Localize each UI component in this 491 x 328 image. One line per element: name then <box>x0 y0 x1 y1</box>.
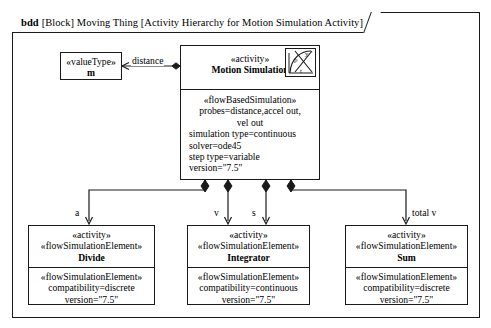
integrator-attributes: «flowSimulationElement» compatibility=co… <box>188 267 309 306</box>
edge-label-v: v <box>213 207 220 218</box>
edge-label-total-v: total v <box>411 207 437 218</box>
block-sum[interactable]: «activity» «flowSimulationElement» Sum «… <box>345 225 468 305</box>
sum-name: Sum <box>349 252 464 263</box>
attr-line: solver=ode45 <box>184 140 316 151</box>
icon-t-axis-label: t <box>300 67 302 75</box>
diagram-kind-label: bdd <box>21 17 39 28</box>
sum-attr-stereotype: «flowSimulationElement» <box>349 271 464 282</box>
value-type-name: m <box>64 67 118 78</box>
integrator-attr-line: version="7.5" <box>191 294 306 305</box>
attr-line: simulation type=continuous <box>184 128 316 139</box>
divide-stereotype-2: «flowSimulationElement» <box>32 240 151 251</box>
block-divide[interactable]: «activity» «flowSimulationElement» Divid… <box>28 225 155 305</box>
motion-simulation-header: «activity» Motion Simulation y p t <box>181 46 319 89</box>
integrator-header: «activity» «flowSimulationElement» Integ… <box>188 226 309 267</box>
attr-line: vel out <box>184 117 316 128</box>
sum-attributes: «flowSimulationElement» compatibility=di… <box>346 267 467 306</box>
attr-line: probes=distance,accel out, <box>184 105 316 116</box>
attr-line: step type=variable <box>184 151 316 162</box>
icon-y-axis-label: y <box>305 50 309 58</box>
divide-stereotype: «activity» <box>32 229 151 240</box>
edge-label-s: s <box>251 207 257 218</box>
edge-label-a: a <box>74 207 80 218</box>
divide-attr-line: compatibility=discrete <box>32 282 151 293</box>
integrator-name: Integrator <box>191 252 306 263</box>
integrator-attr-line: compatibility=continuous <box>191 282 306 293</box>
icon-curve-label: p <box>294 56 298 64</box>
motion-simulation-attributes: «flowBasedSimulation» probes=distance,ac… <box>181 89 319 181</box>
diagram-header-tab: bdd [Block] Moving Thing [Activity Hiera… <box>12 12 373 33</box>
sum-stereotype: «activity» <box>349 229 464 240</box>
edge-label-distance: distance <box>131 55 164 66</box>
integrator-stereotype: «activity» <box>191 229 306 240</box>
block-value-type-m[interactable]: «valueType» m <box>60 52 122 80</box>
value-type-stereotype: «valueType» <box>64 56 118 67</box>
attr-stereotype: «flowBasedSimulation» <box>184 94 316 105</box>
sum-attr-line: version="7.5" <box>349 294 464 305</box>
integrator-stereotype-2: «flowSimulationElement» <box>191 240 306 251</box>
sum-stereotype-2: «flowSimulationElement» <box>349 240 464 251</box>
value-type-header: «valueType» m <box>61 53 121 82</box>
activity-graph-icon: y p t <box>285 48 316 77</box>
divide-attr-stereotype: «flowSimulationElement» <box>32 271 151 282</box>
sum-header: «activity» «flowSimulationElement» Sum <box>346 226 467 267</box>
block-integrator[interactable]: «activity» «flowSimulationElement» Integ… <box>187 225 310 305</box>
sum-attr-line: compatibility=discrete <box>349 282 464 293</box>
divide-attributes: «flowSimulationElement» compatibility=di… <box>29 267 154 306</box>
divide-header: «activity» «flowSimulationElement» Divid… <box>29 226 154 267</box>
diagram-canvas: bdd [Block] Moving Thing [Activity Hiera… <box>0 0 491 328</box>
block-motion-simulation[interactable]: «activity» Motion Simulation y p t «flow… <box>180 45 320 180</box>
divide-attr-line: version="7.5" <box>32 294 151 305</box>
divide-name: Divide <box>32 252 151 263</box>
integrator-attr-stereotype: «flowSimulationElement» <box>191 271 306 282</box>
attr-line: version="7.5" <box>184 162 316 173</box>
diagram-title-label: [Block] Moving Thing [Activity Hierarchy… <box>42 17 363 28</box>
